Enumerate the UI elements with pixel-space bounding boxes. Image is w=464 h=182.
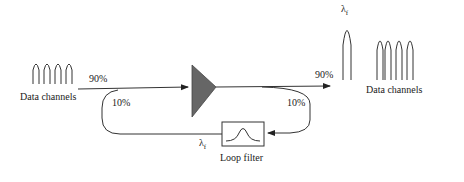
output-lambda-peak-icon <box>343 31 351 81</box>
amplifier-icon <box>192 65 216 117</box>
output-line <box>216 86 330 87</box>
input-line <box>78 87 188 89</box>
loop-lambda-label: λf <box>199 137 206 151</box>
output-channels-label: Data channels <box>366 84 422 95</box>
input-channels-label: Data channels <box>20 91 76 102</box>
input-channels-icon <box>33 64 72 84</box>
loop-tap-out-label: 10% <box>287 97 305 108</box>
loop-filter-icon <box>222 122 264 146</box>
loop-tap-in-label: 10% <box>112 97 130 108</box>
loop-tap-right <box>262 87 310 133</box>
lambda-subscript: f <box>204 143 206 151</box>
output-split-label: 90% <box>315 69 333 80</box>
input-split-label: 90% <box>89 73 107 84</box>
loop-filter-label: Loop filter <box>220 152 263 163</box>
lambda-subscript: f <box>346 9 348 17</box>
output-lambda-label: λf <box>341 3 348 17</box>
output-channels-icon <box>377 41 413 80</box>
